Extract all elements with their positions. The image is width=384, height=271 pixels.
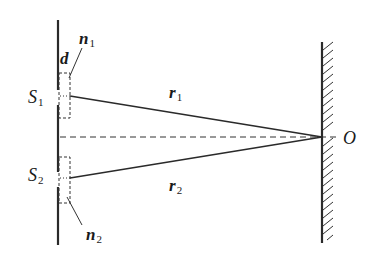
label-medium-n2: n2: [86, 226, 102, 245]
label-r1-main: r: [169, 83, 176, 102]
label-slit1: S1: [28, 88, 44, 108]
label-slit2-sub: 2: [38, 174, 44, 186]
label-path-r1: r1: [169, 84, 182, 103]
label-point-o: O: [343, 129, 356, 147]
ray-r1: [70, 96, 322, 137]
label-slit1-main: S: [28, 87, 37, 107]
label-n2-main: n: [86, 225, 95, 244]
label-r2-sub: 2: [177, 184, 183, 196]
leader-n1: [69, 48, 82, 78]
label-n1-main: n: [79, 29, 88, 48]
label-slit1-sub: 1: [38, 96, 44, 108]
label-n1-sub: 1: [89, 37, 95, 49]
ray-r2: [70, 137, 322, 178]
double-slit-diagram: [0, 0, 384, 271]
label-path-r2: r2: [169, 177, 182, 196]
label-medium-n1: n1: [79, 30, 95, 49]
label-slit2-main: S: [28, 165, 37, 185]
screen: [322, 42, 333, 243]
label-thickness-d: d: [60, 50, 69, 67]
label-r1-sub: 1: [177, 91, 183, 103]
label-slit2: S2: [28, 166, 44, 186]
medium-plates: [59, 73, 70, 203]
leader-n2: [67, 197, 82, 225]
label-n2-sub: 2: [96, 233, 102, 245]
medium-plate-n2: [59, 157, 70, 203]
label-r2-main: r: [169, 176, 176, 195]
